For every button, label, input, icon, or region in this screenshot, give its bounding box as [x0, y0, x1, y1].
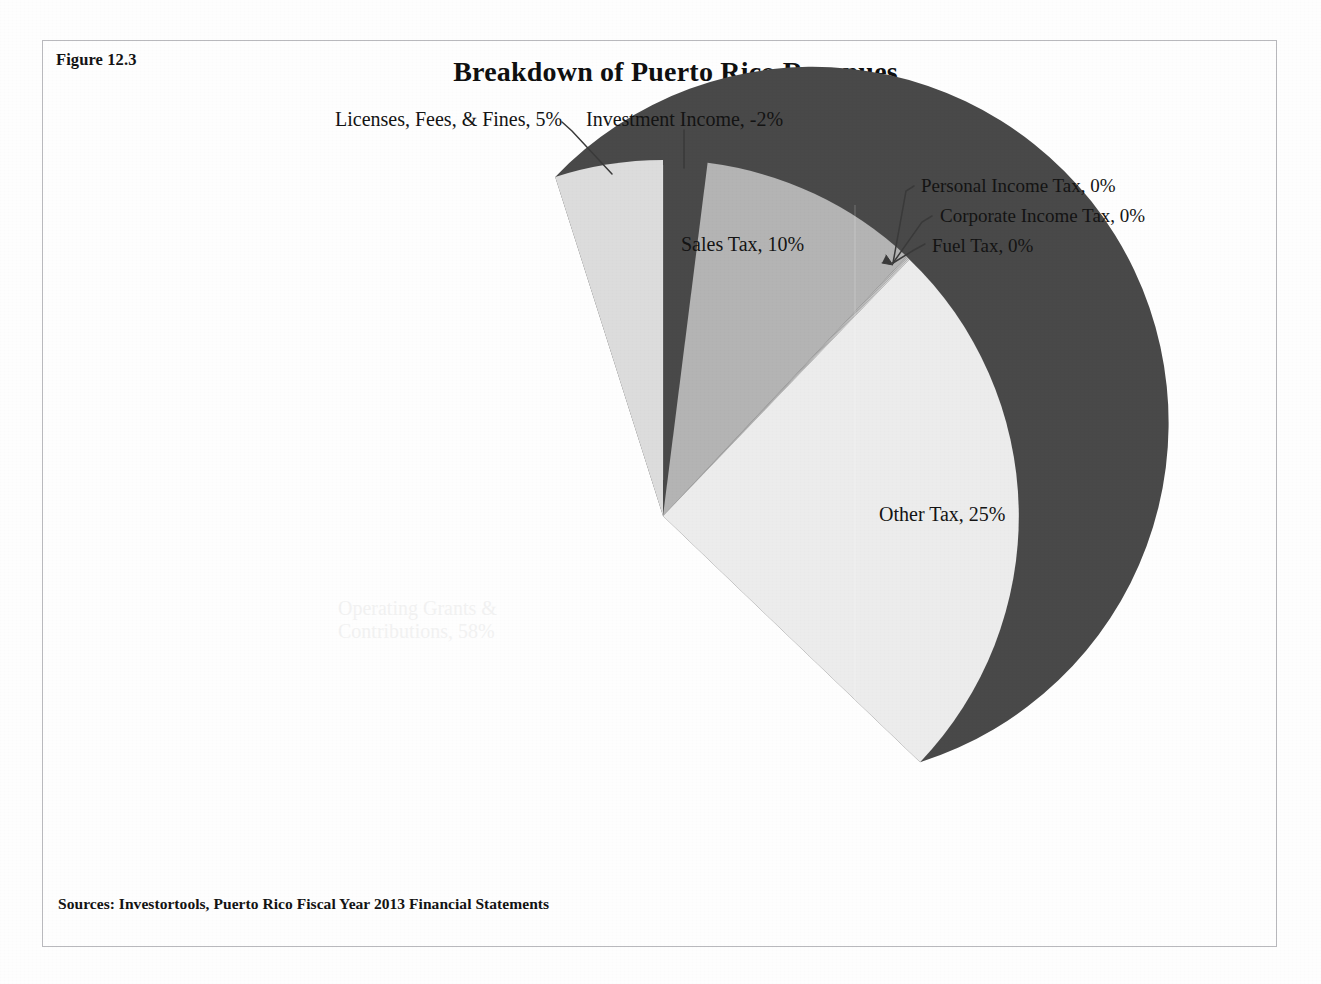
pie-slice-licenses-fees-fines[interactable] — [555, 160, 663, 516]
callout-operating-grants: Operating Grants & Contributions, 58% — [338, 597, 553, 643]
callout-other-tax: Other Tax, 25% — [879, 503, 1006, 526]
callout-corporate-income-tax: Corporate Income Tax, 0% — [940, 205, 1145, 227]
callout-personal-income-tax: Personal Income Tax, 0% — [921, 175, 1116, 197]
callout-operating-grants-line1: Operating Grants & — [338, 597, 497, 619]
callout-licenses-fees-fines: Licenses, Fees, & Fines, 5% — [335, 108, 562, 131]
sources-note: Sources: Investortools, Puerto Rico Fisc… — [58, 895, 549, 913]
callout-investment-income: Investment Income, -2% — [586, 108, 783, 131]
callout-operating-grants-line2: Contributions, 58% — [338, 620, 495, 642]
pie-chart-plot — [0, 0, 1321, 984]
callout-sales-tax: Sales Tax, 10% — [681, 233, 804, 256]
callout-fuel-tax: Fuel Tax, 0% — [932, 235, 1033, 257]
pie-slices — [555, 67, 1168, 762]
document-page: Figure 12.3 Breakdown of Puerto Rico Rev… — [0, 0, 1321, 984]
